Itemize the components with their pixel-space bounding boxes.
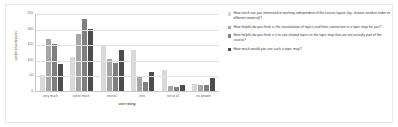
legend-item[interactable]: How helpful do you think is it to see re…	[228, 33, 394, 43]
bar	[192, 84, 197, 91]
bar	[119, 50, 124, 91]
bar	[162, 70, 167, 91]
bar	[76, 34, 81, 91]
chart-figure: number of participants 250200150100500 v…	[0, 0, 398, 127]
bar-group	[101, 14, 124, 91]
bar	[198, 85, 203, 91]
bar	[137, 77, 142, 91]
x-tick-label: less	[129, 94, 155, 98]
bar	[174, 87, 179, 91]
bar	[52, 44, 57, 91]
bar	[88, 29, 93, 91]
bar	[101, 45, 106, 91]
bar-group	[131, 14, 154, 91]
x-tick-label: very much	[37, 94, 63, 98]
y-tick-label: 50	[29, 75, 33, 78]
y-tick-label: 0	[31, 90, 33, 93]
chart-legend: How much are you interested in working i…	[228, 11, 394, 115]
gridline	[36, 61, 219, 62]
legend-label: How helpful do you think is it to see re…	[234, 33, 394, 43]
bar-group	[162, 14, 185, 91]
legend-swatch-icon	[228, 12, 231, 15]
legend-swatch-icon	[228, 34, 231, 37]
x-axis-ticks: very muchrather muchneutrallessnot at al…	[35, 94, 219, 98]
x-tick-label: rather much	[68, 94, 94, 98]
bar-groups	[36, 14, 219, 91]
y-tick-label: 200	[27, 28, 33, 31]
legend-label: How helpful do you think is the visualiz…	[234, 25, 382, 30]
legend-label: How much would you use such a topic map?	[234, 47, 302, 52]
bar	[149, 72, 154, 91]
x-axis-label: user rating	[35, 102, 219, 106]
y-axis-ticks: 250200150100500	[20, 14, 33, 92]
bar	[168, 86, 173, 91]
bar	[143, 82, 148, 91]
bar	[107, 59, 112, 91]
gridline	[36, 14, 219, 15]
bar	[131, 50, 136, 91]
legend-item[interactable]: How much would you use such a topic map?	[228, 47, 394, 52]
legend-label: How much are you interested in working i…	[234, 11, 394, 21]
y-tick-label: 250	[27, 12, 33, 15]
bar-group	[70, 14, 93, 91]
bar-group	[40, 14, 63, 91]
bar	[180, 85, 185, 91]
y-tick-label: 100	[27, 59, 33, 62]
y-tick-label: 150	[27, 44, 33, 47]
legend-swatch-icon	[228, 48, 231, 51]
plot-area: number of participants 250200150100500 v…	[8, 6, 223, 118]
x-tick-label: not at all	[160, 94, 186, 98]
bar	[70, 57, 75, 91]
gridline	[36, 76, 219, 77]
axes	[35, 14, 219, 92]
x-tick-label: neutral	[99, 94, 125, 98]
bar-group	[192, 14, 215, 91]
x-tick-label: no answer	[191, 94, 217, 98]
bar	[204, 85, 209, 91]
bar	[46, 39, 51, 91]
gridline	[36, 45, 219, 46]
bar	[210, 78, 215, 91]
legend-swatch-icon	[228, 26, 231, 29]
y-axis-label: number of participants	[14, 23, 18, 69]
gridline	[36, 30, 219, 31]
legend-item[interactable]: How helpful do you think is the visualiz…	[228, 25, 394, 30]
legend-item[interactable]: How much are you interested in working i…	[228, 11, 394, 21]
